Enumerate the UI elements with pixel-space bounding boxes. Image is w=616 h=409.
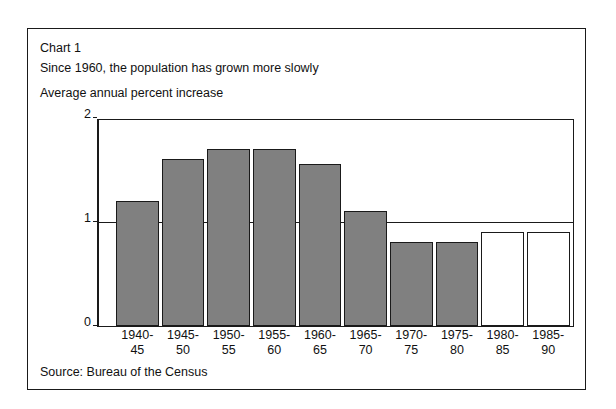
- bar-slot: [390, 119, 433, 326]
- bar-1985-90[interactable]: [527, 232, 570, 326]
- bar-slot: [344, 119, 387, 326]
- y-tick-mark-1: [93, 221, 97, 222]
- bar-1960-65[interactable]: [299, 164, 342, 325]
- source-note: Source: Bureau of the Census: [40, 366, 207, 379]
- x-label-1970-75: 1970-75: [390, 328, 433, 358]
- bar-series: [99, 119, 573, 326]
- chart-title: Since 1960, the population has grown mor…: [40, 62, 319, 75]
- x-axis-labels: 1940-451945-501950-551955-601960-651965-…: [97, 328, 574, 368]
- bar-slot: [299, 119, 342, 326]
- y-tick-mark-0: [93, 325, 97, 326]
- bar-slot: [116, 119, 159, 326]
- chart-number-label: Chart 1: [40, 42, 81, 55]
- bar-1955-60[interactable]: [253, 149, 296, 326]
- bar-slot: [436, 119, 479, 326]
- x-label-1940-45: 1940-45: [116, 328, 159, 358]
- chart-frame: Chart 1 Since 1960, the population has g…: [27, 28, 586, 390]
- x-label-1955-60: 1955-60: [253, 328, 296, 358]
- bar-slot: [207, 119, 250, 326]
- x-label-1975-80: 1975-80: [436, 328, 479, 358]
- bar-1970-75[interactable]: [390, 242, 433, 325]
- bar-slot: [162, 119, 205, 326]
- x-label-1945-50: 1945-50: [162, 328, 205, 358]
- bar-1940-45[interactable]: [116, 201, 159, 326]
- x-label-1980-85: 1980-85: [481, 328, 524, 358]
- y-axis-title: Average annual percent increase: [40, 87, 223, 100]
- bar-1980-85[interactable]: [481, 232, 524, 326]
- bar-slot: [481, 119, 524, 326]
- plot-area: 012: [97, 119, 574, 327]
- bar-1945-50[interactable]: [162, 159, 205, 325]
- bar-1975-80[interactable]: [436, 242, 479, 325]
- y-tick-label-2: 2: [84, 107, 91, 120]
- x-label-1985-90: 1985-90: [527, 328, 570, 358]
- x-label-1960-65: 1960-65: [299, 328, 342, 358]
- bar-slot: [527, 119, 570, 326]
- y-tick-mark-2: [93, 117, 97, 118]
- bar-slot: [253, 119, 296, 326]
- x-label-1965-70: 1965-70: [344, 328, 387, 358]
- bar-1965-70[interactable]: [344, 211, 387, 325]
- x-label-1950-55: 1950-55: [207, 328, 250, 358]
- y-tick-label-0: 0: [84, 315, 91, 328]
- bar-1950-55[interactable]: [207, 149, 250, 326]
- y-tick-label-1: 1: [84, 211, 91, 224]
